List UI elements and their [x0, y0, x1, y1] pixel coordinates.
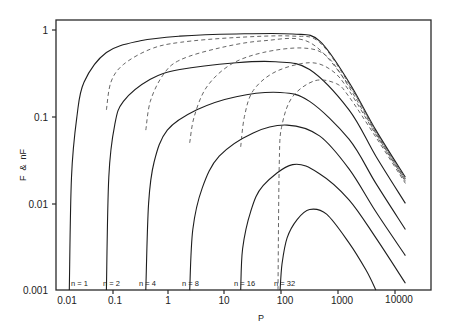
n-label: n = 1 [71, 279, 88, 288]
y-tick-label: 0.001 [23, 285, 48, 296]
x-tick-label: 100 [277, 295, 294, 306]
y-tick-label: 1 [42, 25, 48, 36]
dashed-curve [190, 48, 406, 181]
curves [69, 33, 405, 290]
dashed-curve [146, 38, 406, 179]
n-label: n = 16 [234, 279, 255, 288]
x-tick-label: 0.01 [57, 295, 77, 306]
x-tick-label: 1000 [331, 295, 354, 306]
solid-curve [280, 209, 376, 290]
n-label: n = 2 [103, 279, 120, 288]
y-axis: 1 0.1 0.01 0.001 F & nF [18, 25, 56, 296]
y-tick-label: 0.01 [29, 199, 49, 210]
n-label: n = 4 [139, 279, 156, 288]
x-axis-label: P [258, 313, 264, 323]
x-tick-label: 1 [165, 295, 171, 306]
y-axis-label: F & nF [18, 149, 28, 182]
dashed-curve [278, 80, 405, 290]
n-label: n = 8 [182, 279, 199, 288]
chart: 1 0.1 0.01 0.001 F & nF 0.01 0.1 1 10 10… [0, 0, 449, 330]
x-tick-label: 10000 [385, 294, 413, 305]
y-tick-label: 0.1 [34, 112, 48, 123]
solid-curve [241, 164, 406, 290]
x-tick-label: 0.1 [108, 295, 122, 306]
x-axis: 0.01 0.1 1 10 100 1000 10000 P [57, 290, 413, 323]
solid-curve [190, 125, 406, 290]
n-label: n = 32 [274, 279, 295, 288]
x-tick-label: 10 [218, 295, 230, 306]
n-labels: n = 1 n = 2 n = 4 n = 8 n = 16 n = 32 [71, 279, 295, 288]
